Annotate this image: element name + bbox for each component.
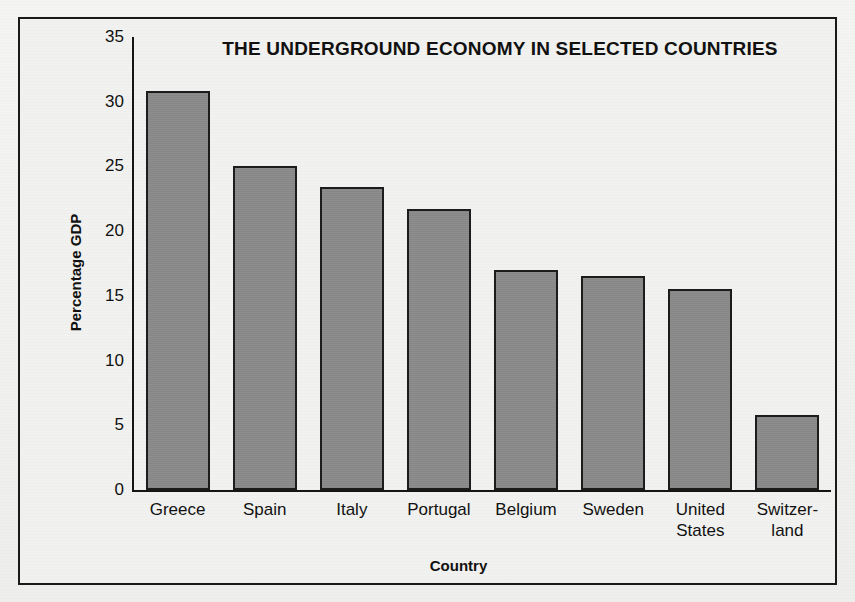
page-background: THE UNDERGROUND ECONOMY IN SELECTED COUN…: [0, 0, 855, 602]
y-tick-label: 10: [86, 351, 124, 371]
y-tick-label: 5: [86, 415, 124, 435]
y-tick-label: 30: [86, 92, 124, 112]
x-tick-label-line: Portugal: [395, 499, 482, 520]
bar: [581, 276, 645, 490]
y-tick-label: 15: [86, 286, 124, 306]
chart-frame: THE UNDERGROUND ECONOMY IN SELECTED COUN…: [18, 17, 837, 585]
bar-series: [134, 37, 831, 492]
x-tick-label-line: States: [657, 520, 744, 541]
bar: [494, 270, 558, 490]
bar: [668, 289, 732, 490]
x-tick-label-line: Switzer-: [744, 499, 831, 520]
y-tick-label: 0: [86, 480, 124, 500]
x-tick-label: Switzer-land: [744, 499, 831, 541]
x-tick-label-line: land: [744, 520, 831, 541]
x-tick-label-line: Greece: [134, 499, 221, 520]
x-tick-label: Greece: [134, 499, 221, 520]
x-tick-label: UnitedStates: [657, 499, 744, 541]
x-tick-label: Italy: [308, 499, 395, 520]
bar: [407, 209, 471, 490]
x-tick-label: Belgium: [483, 499, 570, 520]
x-tick-label-line: Sweden: [570, 499, 657, 520]
x-tick-label: Sweden: [570, 499, 657, 520]
x-tick-label-line: Belgium: [483, 499, 570, 520]
bar: [233, 166, 297, 490]
x-axis-label: Country: [86, 557, 831, 574]
y-axis-label: Percentage GDP: [67, 173, 84, 373]
x-tick-label: Portugal: [395, 499, 482, 520]
y-tick-label: 25: [86, 156, 124, 176]
bar: [320, 187, 384, 490]
x-tick-label-line: United: [657, 499, 744, 520]
bar: [755, 415, 819, 490]
plot-area: 05101520253035 GreeceSpainItalyPortugalB…: [86, 37, 831, 492]
x-tick-label: Spain: [221, 499, 308, 520]
bar: [146, 91, 210, 490]
x-tick-label-line: Italy: [308, 499, 395, 520]
y-tick-label: 20: [86, 221, 124, 241]
y-tick-label: 35: [86, 27, 124, 47]
x-tick-label-line: Spain: [221, 499, 308, 520]
